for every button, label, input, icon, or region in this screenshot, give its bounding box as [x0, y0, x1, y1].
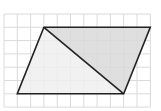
parallelogram-diagram: [0, 0, 161, 111]
